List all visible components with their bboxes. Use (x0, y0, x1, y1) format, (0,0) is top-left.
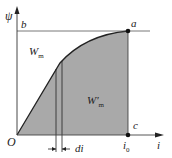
region-upper-main: W (29, 45, 38, 57)
label-region-upper: Wm (29, 46, 44, 60)
label-c: c (133, 120, 138, 131)
di-arrowhead-right (62, 147, 66, 151)
label-b: b (21, 19, 27, 30)
label-region-lower: W′m (87, 95, 104, 109)
y-axis-arrow-icon (15, 6, 20, 14)
region-lower-sub: m (99, 101, 104, 109)
point-c (126, 133, 131, 138)
i0-sub: 0 (126, 146, 130, 154)
region-upper-sub: m (38, 52, 43, 60)
y-axis-label: ψ (5, 10, 12, 22)
label-di: di (75, 143, 84, 154)
point-a (126, 29, 131, 34)
region-lower-main: W′ (87, 94, 99, 106)
label-i0: i0 (123, 140, 130, 154)
label-origin: O (7, 136, 16, 148)
label-a: a (131, 18, 137, 29)
di-arrowhead-left (52, 147, 56, 151)
x-axis-label: i (157, 140, 160, 151)
x-axis-arrow-icon (155, 133, 164, 138)
